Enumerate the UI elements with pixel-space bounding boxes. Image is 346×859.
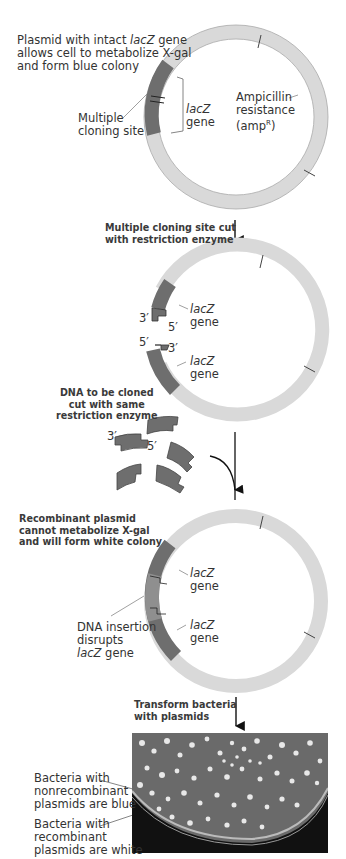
lacz-segment xyxy=(152,64,168,134)
label-3prime-lower: 3′ xyxy=(168,342,178,355)
step-label-recombinant: Recombinant plasmid cannot metabolize X-… xyxy=(19,513,162,548)
caption-intact-plasmid: Plasmid with intact lacZ gene allows cel… xyxy=(17,34,192,73)
step-label-donor-dna: DNA to be cloned cut with same restricti… xyxy=(56,387,158,422)
label-lacz-gene-1: lacZ gene xyxy=(186,103,215,129)
label-lacz-gene-3a: lacZ gene xyxy=(190,567,219,593)
label-lacz-gene-2a: lacZ gene xyxy=(190,303,219,329)
dna-fragments xyxy=(115,416,194,493)
label-3prime-upper: 3′ xyxy=(139,312,149,325)
label-5prime-lower: 5′ xyxy=(139,336,149,349)
label-ampicillin-resistance: Ampicillin resistance (ampR) xyxy=(236,91,295,133)
insert-segment xyxy=(152,575,155,620)
label-white-colonies: Bacteria with recombinant plasmids are w… xyxy=(34,818,143,857)
label-3prime-fragment: 3′ xyxy=(107,430,117,443)
step-label-transform: Transform bacteria with plasmids xyxy=(134,699,237,722)
label-lacz-gene-2b: lacZ gene xyxy=(190,355,219,381)
label-dna-insertion: DNA insertion disrupts lacZ gene xyxy=(77,621,156,660)
label-5prime-upper: 5′ xyxy=(168,321,178,334)
label-5prime-fragment: 5′ xyxy=(147,440,157,453)
petri-dish-photo xyxy=(132,733,328,853)
arrow-merge xyxy=(210,456,235,490)
label-blue-colonies: Bacteria with nonrecombinant plasmids ar… xyxy=(34,772,136,811)
label-lacz-gene-3b: lacZ gene xyxy=(190,619,219,645)
label-multiple-cloning-site: Multiple cloning site xyxy=(78,112,144,138)
step-label-mcs-cut: Multiple cloning site cut with restricti… xyxy=(105,222,236,245)
